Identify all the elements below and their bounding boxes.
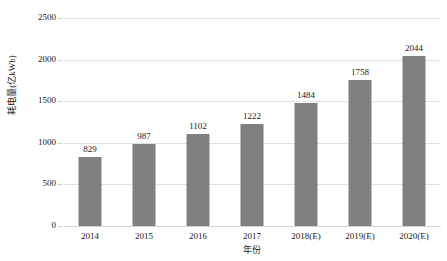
bar-slot: 829 (63, 18, 117, 226)
x-axis-tick-label: 2020(E) (399, 230, 429, 242)
x-axis-tick-label: 2017 (243, 230, 261, 242)
y-axis-tick-label: 2000 (38, 54, 56, 65)
y-axis-tick-label: 0 (52, 220, 57, 231)
gridline (63, 226, 441, 227)
y-axis-tick-label: 500 (43, 178, 57, 189)
bar (349, 80, 372, 226)
x-axis-tick-label: 2015 (135, 230, 153, 242)
x-axis-tick-label: 2016 (189, 230, 207, 242)
bar-value-label: 1102 (189, 121, 207, 131)
y-tick-mark (58, 101, 62, 102)
bar (79, 157, 102, 226)
plot-area: 05001000150020002500 8299871102122214841… (63, 18, 441, 226)
bar-slot: 1758 (333, 18, 387, 226)
x-axis-tick-label: 2014 (81, 230, 99, 242)
bar-value-label: 1758 (351, 67, 369, 77)
y-tick-mark (58, 226, 62, 227)
bar-slot: 1222 (225, 18, 279, 226)
y-axis-tick-label: 1500 (38, 95, 56, 106)
bar (295, 103, 318, 226)
y-axis-tick-label: 1000 (38, 137, 56, 148)
bar-value-label: 2044 (405, 43, 423, 53)
bar (403, 56, 426, 226)
bar-value-label: 1484 (297, 90, 315, 100)
x-axis-tick-label: 2019(E) (345, 230, 375, 242)
bar (133, 144, 156, 226)
bar-value-label: 987 (137, 131, 151, 141)
bar-value-label: 1222 (243, 111, 261, 121)
bar (241, 124, 264, 226)
x-axis-ticks: 20142015201620172018(E)2019(E)2020(E) (63, 230, 441, 244)
x-axis-title: 年份 (63, 244, 441, 256)
bar-slot: 2044 (387, 18, 441, 226)
y-tick-mark (58, 18, 62, 19)
y-axis-tick-label: 2500 (38, 12, 56, 23)
x-axis-tick-label: 2018(E) (291, 230, 321, 242)
y-tick-mark (58, 184, 62, 185)
y-tick-mark (58, 143, 62, 144)
bar-slot: 1102 (171, 18, 225, 226)
bar-series: 82998711021222148417582044 (63, 18, 441, 226)
y-axis-title: 耗电量(亿kWh) (5, 35, 19, 135)
bar-value-label: 829 (83, 144, 97, 154)
y-tick-mark (58, 60, 62, 61)
bar (187, 134, 210, 226)
bar-slot: 987 (117, 18, 171, 226)
bar-chart: 耗电量(亿kWh) 05001000150020002500 829987110… (0, 0, 447, 261)
bar-slot: 1484 (279, 18, 333, 226)
